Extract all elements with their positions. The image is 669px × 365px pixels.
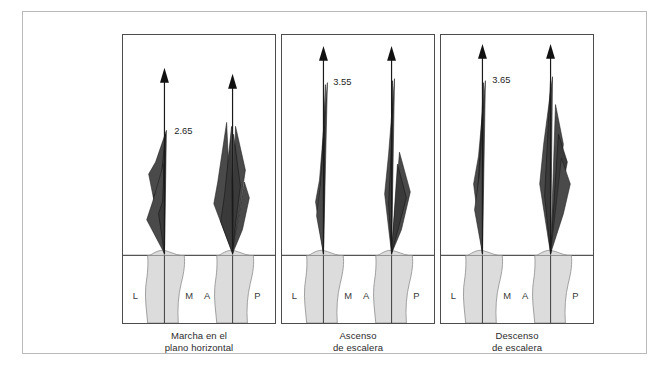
limb-bump-sagittal — [378, 250, 409, 255]
caption-line-1: Marcha en el — [122, 330, 276, 342]
axis-label-posterior: P — [254, 290, 260, 301]
panel-stair-descent-graphic: 3.65 L M A P — [441, 35, 593, 323]
caption-line-1: Ascenso — [281, 330, 435, 342]
resultant-arrow-head — [478, 44, 487, 59]
axis-label-anterior: A — [363, 290, 370, 301]
caption-stair-descent: Descenso de escalera — [440, 330, 594, 353]
limb-bump-sagittal — [219, 250, 250, 255]
caption-horizontal-walking: Marcha en el plano horizontal — [122, 330, 276, 353]
limb-outline-frontal — [145, 255, 184, 323]
limb-outline-sagittal — [215, 255, 254, 323]
axis-label-medial: M — [503, 290, 511, 301]
panel-horizontal-walking-graphic: 2.65 L M A P — [123, 35, 275, 323]
resultant-arrow-head — [387, 46, 396, 61]
axis-label-posterior: P — [572, 290, 578, 301]
caption-line-2: de escalera — [281, 342, 435, 354]
axis-label-lateral: L — [451, 290, 456, 301]
caption-line-1: Descenso — [440, 330, 594, 342]
figure-outer-frame: 2.65 L M A P — [22, 11, 647, 354]
limb-outline-sagittal — [533, 255, 572, 323]
axis-label-lateral: L — [292, 290, 297, 301]
panel-stair-ascent-graphic: 3.55 L M A P — [282, 35, 434, 323]
peak-value-label: 3.55 — [333, 76, 351, 87]
caption-stair-ascent: Ascenso de escalera — [281, 330, 435, 353]
panel-horizontal-walking: 2.65 L M A P — [122, 34, 276, 324]
panel-stair-descent: 3.65 L M A P — [440, 34, 594, 324]
peak-value-label: 3.65 — [492, 74, 510, 85]
figure-root: 2.65 L M A P — [0, 0, 669, 365]
caption-line-2: plano horizontal — [122, 342, 276, 354]
axis-label-lateral: L — [133, 290, 138, 301]
resultant-arrow-head — [228, 74, 237, 89]
limb-outline-frontal — [463, 255, 502, 323]
limb-outline-frontal — [304, 255, 343, 323]
axis-label-anterior: A — [522, 290, 529, 301]
resultant-arrow-head — [319, 46, 328, 61]
panel-stair-ascent: 3.55 L M A P — [281, 34, 435, 324]
limb-bump-sagittal — [537, 250, 568, 255]
resultant-arrow-head — [546, 44, 555, 59]
axis-label-medial: M — [344, 290, 352, 301]
peak-value-label: 2.65 — [174, 125, 192, 136]
caption-line-2: de escalera — [440, 342, 594, 354]
resultant-arrow-head — [160, 68, 169, 83]
axis-label-anterior: A — [204, 290, 211, 301]
axis-label-medial: M — [185, 290, 193, 301]
axis-label-posterior: P — [413, 290, 419, 301]
limb-outline-sagittal — [374, 255, 413, 323]
